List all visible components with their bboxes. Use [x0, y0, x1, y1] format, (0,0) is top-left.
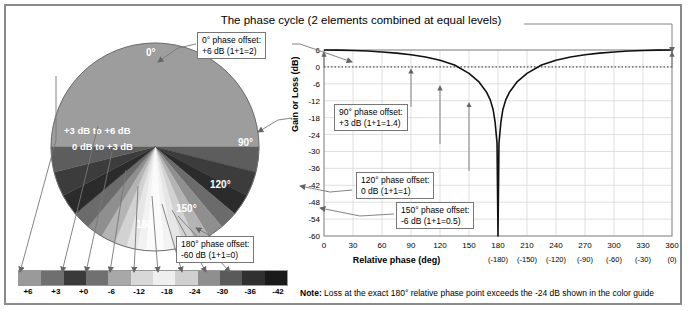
color-swatch-5 [131, 271, 153, 285]
y-axis-title: Gain or Loss (dB) [290, 56, 300, 132]
color-swatch-1 [41, 271, 63, 285]
color-guide-label-8: -36 [244, 287, 256, 296]
color-guide-label-5: -18 [161, 287, 173, 296]
callout-title: 0° phase offset: [202, 35, 261, 46]
x-tick-12: 360 [665, 241, 679, 250]
callout-title: 180° phase offset: [181, 239, 249, 250]
y-tick-4: -18 [308, 114, 320, 123]
color-swatch-9 [220, 271, 242, 285]
x-tick-alt-10: (-60) [606, 255, 622, 264]
x-tick-5: 150 [462, 241, 476, 250]
pie-label-0: 0° [146, 47, 156, 58]
x-tick-1: 30 [349, 241, 358, 250]
note-label: Note: [300, 288, 322, 298]
color-swatch-3 [86, 271, 108, 285]
y-tick-7: -36 [308, 164, 320, 173]
y-tick-6: -30 [308, 147, 320, 156]
x-tick-6: 180 [491, 241, 505, 250]
pie-label-2: 120° [210, 179, 231, 190]
callout-c90: 90° phase offset:+3 dB (1+1=1.4) [334, 104, 408, 131]
color-swatch-11 [265, 271, 287, 285]
color-swatch-10 [242, 271, 264, 285]
phase-cycle-figure: The phase cycle (2 elements combined at … [0, 0, 688, 311]
color-swatch-6 [153, 271, 175, 285]
color-guide-bar [18, 270, 288, 286]
x-tick-7: 210 [520, 241, 534, 250]
x-tick-alt-12: (0) [667, 255, 677, 264]
plot-svg: 60-6-12-18-24-30-36-42-48-54-60030609012… [292, 40, 678, 273]
color-guide-label-2: +0 [79, 287, 88, 296]
callout-value: -60 dB (1+1=0) [181, 250, 249, 261]
x-tick-11: 330 [636, 241, 650, 250]
color-swatch-4 [108, 271, 130, 285]
callout-value: +3 dB (1+1=1.4) [339, 118, 403, 129]
x-tick-0: 0 [322, 241, 327, 250]
x-axis-title: Relative phase (deg) [353, 255, 441, 265]
color-guide-label-7: -30 [217, 287, 229, 296]
y-tick-9: -48 [308, 198, 320, 207]
pie-range-label-1: 0 dB to +3 dB [72, 141, 133, 152]
gain-loss-chart: Gain or Loss (dB) 60-6-12-18-24-30-36-42… [292, 40, 678, 273]
callout-title: 90° phase offset: [339, 107, 403, 118]
x-tick-2: 60 [378, 241, 387, 250]
x-tick-alt-11: (-30) [635, 255, 651, 264]
x-tick-alt-6: (-180) [488, 255, 509, 264]
pie-label-4: 180° [136, 219, 157, 230]
x-tick-10: 300 [607, 241, 621, 250]
callout-value: -6 dB (1+1=0.5) [401, 216, 469, 227]
x-tick-8: 240 [549, 241, 563, 250]
phase-cycle-pie: 0°90°120°150°180°+3 dB to +6 dB0 dB to +… [42, 42, 268, 260]
color-swatch-2 [64, 271, 86, 285]
color-guide-labels: +6+3+0-6-12-18-24-30-36-42 [18, 287, 288, 299]
color-guide-label-1: +3 [51, 287, 60, 296]
y-tick-10: -54 [308, 215, 320, 224]
pie-label-1: 90° [238, 137, 253, 148]
y-tick-2: -6 [313, 80, 321, 89]
figure-note: Note: Loss at the exact 180° relative ph… [300, 288, 654, 298]
callout-c120: 120° phase offset:0 dB (1+1=1) [356, 172, 434, 199]
figure-title: The phase cycle (2 elements combined at … [196, 14, 526, 26]
color-guide-label-0: +6 [23, 287, 32, 296]
y-tick-8: -42 [308, 181, 320, 190]
color-swatch-0 [19, 271, 41, 285]
color-swatch-7 [175, 271, 197, 285]
y-tick-11: -60 [308, 232, 320, 241]
pie-svg: 0°90°120°150°180°+3 dB to +6 dB0 dB to +… [42, 42, 268, 260]
color-guide-label-6: -24 [189, 287, 201, 296]
x-tick-alt-8: (-120) [546, 255, 567, 264]
note-text: Loss at the exact 180° relative phase po… [324, 288, 654, 298]
x-tick-9: 270 [578, 241, 592, 250]
x-tick-3: 90 [407, 241, 416, 250]
color-guide-label-9: -42 [272, 287, 284, 296]
callout-c0: 0° phase offset:+6 dB (1+1=2) [197, 32, 266, 59]
callout-value: 0 dB (1+1=1) [361, 186, 429, 197]
color-guide-label-4: -12 [133, 287, 145, 296]
callout-title: 150° phase offset: [401, 205, 469, 216]
y-tick-0: 6 [316, 46, 321, 55]
callout-c150: 150° phase offset:-6 dB (1+1=0.5) [396, 202, 474, 229]
color-guide-label-3: -6 [108, 287, 115, 296]
x-tick-4: 120 [433, 241, 447, 250]
pie-range-label-0: +3 dB to +6 dB [64, 125, 131, 136]
x-tick-alt-9: (-90) [577, 255, 593, 264]
x-tick-alt-7: (-150) [517, 255, 538, 264]
pie-label-3: 150° [176, 203, 197, 214]
callout-value: +6 dB (1+1=2) [202, 46, 261, 57]
color-swatch-8 [198, 271, 220, 285]
y-tick-3: -12 [308, 97, 320, 106]
callout-title: 120° phase offset: [361, 175, 429, 186]
y-tick-5: -24 [308, 131, 320, 140]
y-tick-1: 0 [316, 63, 321, 72]
callout-c180: 180° phase offset:-60 dB (1+1=0) [176, 236, 254, 263]
